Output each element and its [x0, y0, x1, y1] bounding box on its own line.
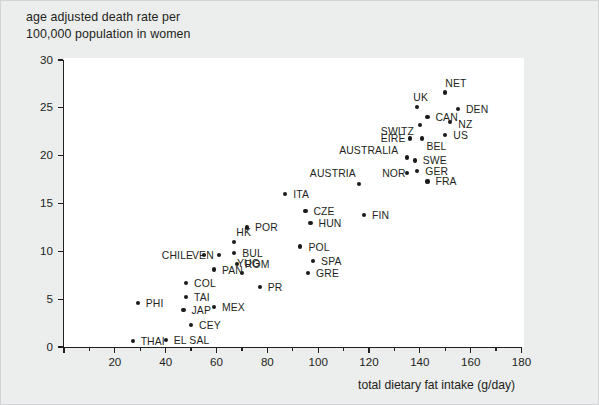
chart-title: age adjusted death rate per 100,000 popu… — [26, 9, 356, 42]
x-tick-minor — [292, 347, 293, 351]
data-point — [235, 262, 239, 266]
x-tick-label: 120 — [354, 355, 384, 368]
data-point-label: US — [453, 130, 468, 141]
x-tick — [470, 347, 471, 353]
data-point-label: FIN — [372, 210, 389, 221]
data-point — [212, 267, 216, 271]
data-point — [362, 213, 366, 217]
data-point-label: NET — [445, 78, 466, 89]
x-tick — [521, 347, 522, 353]
scatter-plot-figure: age adjusted death rate per 100,000 popu… — [0, 0, 599, 405]
y-tick — [58, 59, 63, 60]
data-point-label: MEX — [222, 302, 245, 313]
title-line-2: 100,000 population in women — [26, 26, 356, 43]
data-point-label: JAP — [191, 305, 211, 316]
data-point-label: SWITZ — [381, 126, 414, 137]
data-point — [443, 90, 447, 94]
y-tick-label: 5 — [27, 292, 53, 305]
x-tick-label: 140 — [405, 355, 435, 368]
data-point — [303, 209, 307, 213]
y-tick — [58, 346, 63, 347]
y-tick-label: 0 — [27, 340, 53, 353]
x-tick-minor — [140, 347, 141, 351]
x-axis-label: total dietary fat intake (g/day) — [358, 378, 515, 392]
data-point-label: NZ — [458, 119, 472, 130]
title-line-1: age adjusted death rate per — [26, 9, 356, 26]
data-point — [418, 123, 422, 127]
data-point-label: DEN — [466, 104, 488, 115]
x-tick-label: 160 — [456, 355, 486, 368]
data-point-label: FRA — [435, 176, 456, 187]
x-tick-label: 100 — [303, 355, 333, 368]
plot-area-background — [64, 58, 524, 347]
data-point-label: POR — [255, 222, 278, 233]
data-point-label: PHI — [146, 298, 164, 309]
data-point — [258, 285, 262, 289]
data-point — [308, 221, 312, 225]
y-tick-label: 25 — [27, 100, 53, 113]
y-tick — [58, 251, 63, 252]
y-tick — [58, 299, 63, 300]
data-point-label: TAI — [194, 292, 210, 303]
data-point-label: COL — [194, 278, 216, 289]
x-tick-minor — [445, 347, 446, 351]
y-tick — [58, 203, 63, 204]
data-point — [136, 301, 140, 305]
x-tick — [419, 347, 420, 353]
x-tick-minor — [394, 347, 395, 351]
data-point-label: GER — [425, 166, 448, 177]
data-point-label: HUN — [319, 218, 342, 229]
data-point-label: CEY — [199, 320, 221, 331]
y-tick-label: 15 — [27, 196, 53, 209]
data-point-label: ITA — [293, 189, 309, 200]
x-tick — [114, 347, 115, 353]
data-point-label: PAN — [222, 265, 243, 276]
data-point-label: GRE — [316, 268, 339, 279]
data-point — [405, 155, 409, 159]
data-point — [212, 305, 216, 309]
x-tick-minor — [89, 347, 90, 351]
x-tick-label: 80 — [252, 355, 282, 368]
data-point-label: AUSTRALIA — [339, 145, 398, 156]
data-point-label: BEL — [426, 141, 446, 152]
y-tick — [58, 107, 63, 108]
x-tick-minor — [343, 347, 344, 351]
data-point-label: AUSTRIA — [310, 168, 356, 179]
data-point — [181, 308, 185, 312]
x-tick-minor — [495, 347, 496, 351]
data-point-label: CHILE — [162, 250, 193, 261]
y-tick-label: 30 — [27, 53, 53, 66]
x-tick — [216, 347, 217, 353]
x-tick — [368, 347, 369, 353]
data-point-label: ROM — [245, 259, 270, 270]
data-point-label: CAN — [435, 112, 457, 123]
data-point — [184, 281, 188, 285]
data-point-label: THAI — [141, 336, 165, 347]
data-point-label: EL SAL — [174, 335, 210, 346]
x-tick — [165, 347, 166, 353]
x-tick — [63, 347, 64, 353]
x-tick-label: 20 — [100, 355, 130, 368]
data-point-label: BUL — [242, 248, 263, 259]
x-tick — [318, 347, 319, 353]
data-point-label: SWE — [423, 155, 447, 166]
data-point-label: UK — [413, 92, 428, 103]
data-point — [245, 225, 249, 229]
data-point — [425, 179, 429, 183]
y-axis-line — [63, 60, 64, 348]
y-tick — [58, 155, 63, 156]
data-point-label: POL — [308, 242, 329, 253]
x-tick-label: 40 — [151, 355, 181, 368]
x-tick-minor — [241, 347, 242, 351]
data-point-label: SPA — [321, 256, 341, 267]
data-point — [456, 107, 460, 111]
y-tick-label: 10 — [27, 244, 53, 257]
data-point-label: PR — [268, 282, 283, 293]
data-point — [413, 158, 417, 162]
x-tick — [267, 347, 268, 353]
x-tick-label: 180 — [507, 355, 537, 368]
data-point — [443, 133, 447, 137]
x-tick-label: 60 — [202, 355, 232, 368]
x-tick-minor — [190, 347, 191, 351]
data-point-label: NOR — [382, 168, 406, 179]
